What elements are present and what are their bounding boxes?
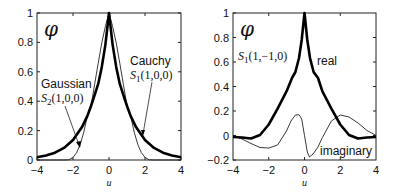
right-ytick-4: 0.6 — [214, 56, 229, 68]
right-ytick-2: 0.2 — [214, 105, 229, 117]
left-phi-label: φ — [44, 17, 58, 41]
right-ytick-6: 1 — [223, 7, 229, 19]
left-xtick-3: 2 — [142, 164, 148, 176]
right-phi-label: φ — [240, 17, 254, 41]
left-ytick-1: 0.2 — [18, 125, 33, 137]
right-xtick-1: −2 — [262, 164, 275, 176]
imaginary-label: imaginary — [320, 144, 372, 158]
right-xtick-4: 4 — [373, 164, 379, 176]
gaussian-arrow — [65, 106, 79, 145]
gaussian-label: Gaussian — [41, 77, 92, 91]
left-plot: 0 0.2 0.4 0.6 0.8 1 −4 −2 0 2 4 u φ Cauc… — [18, 7, 184, 188]
left-xtick-1: −2 — [67, 164, 80, 176]
left-xtick-0: −4 — [31, 164, 44, 176]
left-x-axis-label: u — [107, 177, 112, 188]
real-curve — [233, 13, 376, 139]
right-ytick-1: 0 — [223, 130, 229, 142]
right-plot: −0.2 0 0.2 0.4 0.6 0.8 1 −4 −2 0 2 4 u φ… — [207, 7, 379, 188]
left-ytick-5: 1 — [27, 7, 33, 19]
left-ytick-3: 0.6 — [18, 66, 33, 78]
cauchy-label: Cauchy — [130, 54, 171, 68]
gaussian-arrowhead-icon — [76, 141, 81, 148]
cauchy-arrow — [143, 82, 152, 134]
right-xtick-0: −4 — [227, 164, 240, 176]
figure: 0 0.2 0.4 0.6 0.8 1 −4 −2 0 2 4 u φ Cauc… — [0, 0, 397, 195]
gaussian-math: S2(1,0,0) — [41, 91, 84, 107]
right-ytick-3: 0.4 — [214, 81, 229, 93]
right-xtick-2: 0 — [301, 164, 307, 176]
right-x-axis-label: u — [302, 177, 307, 188]
right-xtick-3: 2 — [337, 164, 343, 176]
right-math-label: S1(1,−1,0) — [238, 49, 287, 65]
left-ytick-4: 0.8 — [18, 36, 33, 48]
real-label: real — [317, 54, 337, 68]
right-ytick-5: 0.8 — [214, 32, 229, 44]
left-ytick-2: 0.4 — [18, 95, 33, 107]
left-xtick-2: 0 — [106, 164, 112, 176]
cauchy-math: S1(1,0,0) — [130, 68, 173, 84]
left-xtick-4: 4 — [178, 164, 184, 176]
